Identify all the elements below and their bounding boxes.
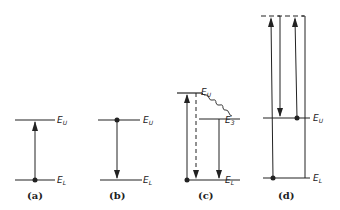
arrowhead-up-icon — [32, 121, 38, 131]
arrowhead-down-icon — [114, 170, 120, 179]
caption-c: (c) — [198, 190, 214, 201]
panel-a: EU EL (a) — [15, 115, 68, 201]
arrowhead-up-icon — [268, 17, 274, 27]
electron-dot — [33, 178, 38, 183]
arrowhead-down-icon — [193, 170, 199, 179]
energy-level-diagram: EU EL (a) EU EL (b) EU E3 EL (c) — [0, 0, 340, 210]
upper-level-label: EU — [313, 113, 324, 124]
electron-dot — [115, 118, 120, 123]
panel-b: EU EL (b) — [98, 115, 154, 201]
lower-level-label: EL — [225, 175, 234, 186]
electron-dot — [185, 178, 190, 183]
lower-level-label: EL — [313, 173, 322, 184]
caption-d: (d) — [278, 190, 294, 201]
excitation-arrow-2 — [295, 19, 297, 118]
caption-a: (a) — [27, 190, 43, 201]
panel-d: EU EL (d) — [261, 16, 324, 201]
electron-dot — [271, 176, 276, 181]
upper-level-label: EU — [143, 115, 154, 126]
electron-dot — [295, 116, 300, 121]
upper-level-label: EU — [201, 87, 212, 98]
anti-stokes-emission-arrow — [302, 16, 305, 178]
arrowhead-up-icon — [184, 94, 190, 103]
arrowhead-down-icon — [277, 108, 283, 117]
caption-b: (b) — [109, 190, 125, 201]
arrowhead-up-icon — [292, 17, 298, 27]
arrowhead-down-icon — [216, 170, 222, 179]
lower-level-label: EL — [143, 175, 152, 186]
excitation-arrow — [271, 19, 273, 178]
panel-c: EU E3 EL (c) — [177, 87, 240, 201]
stokes-emission-arrow — [278, 16, 280, 116]
middle-level-label: E3 — [225, 115, 235, 126]
upper-level-label: EU — [57, 115, 68, 126]
lower-level-label: EL — [57, 175, 66, 186]
